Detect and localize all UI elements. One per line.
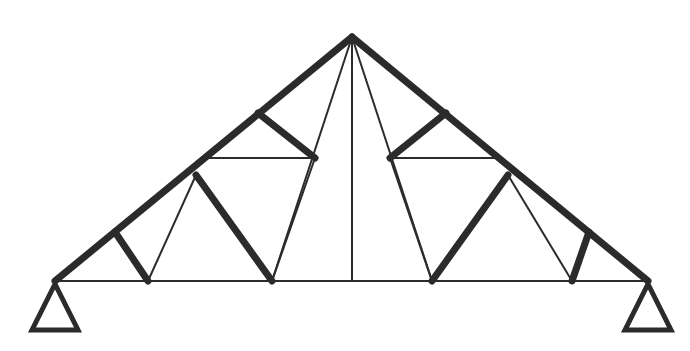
truss-svg-canvas bbox=[0, 0, 690, 351]
truss-diagram bbox=[0, 0, 690, 351]
diagram-background bbox=[0, 0, 690, 351]
